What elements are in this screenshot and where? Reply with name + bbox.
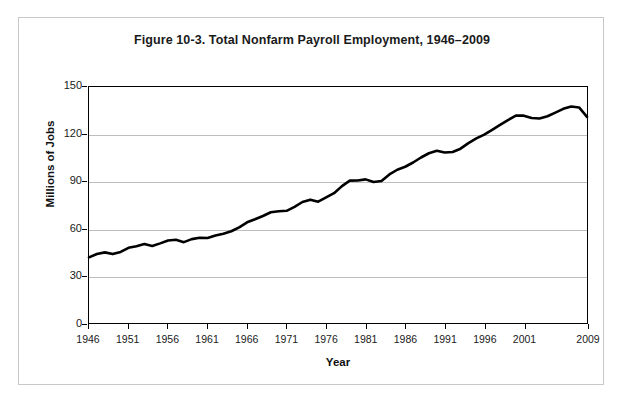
y-axis-tick-label: 120: [50, 127, 82, 139]
y-axis-tick-label: 60: [50, 222, 82, 234]
figure-card: Figure 10-3. Total Nonfarm Payroll Emplo…: [18, 17, 604, 385]
y-axis-tick-label: 30: [50, 269, 82, 281]
y-axis-tick-mark: [82, 181, 87, 182]
x-axis-tick-label: 1946: [66, 333, 110, 345]
y-axis-tick-label: 0: [50, 317, 82, 329]
x-axis-tick-label: 1956: [145, 333, 189, 345]
nonfarm-payroll-line: [89, 107, 587, 258]
x-axis-tick-mark: [326, 324, 327, 329]
x-axis-tick-label: 1991: [423, 333, 467, 345]
x-axis-tick-mark: [128, 324, 129, 329]
x-axis-tick-mark: [405, 324, 406, 329]
x-axis-tick-label: 2001: [503, 333, 547, 345]
x-axis-tick-mark: [366, 324, 367, 329]
chart-title: Figure 10-3. Total Nonfarm Payroll Emplo…: [19, 33, 605, 47]
x-axis-tick-label: 1966: [225, 333, 269, 345]
y-axis-tick-group: 0306090120150: [48, 86, 82, 324]
y-axis-tick-mark: [82, 134, 87, 135]
x-axis-tick-label: 2009: [566, 333, 610, 345]
x-axis-tick-label: 1951: [106, 333, 150, 345]
x-axis-tick-mark: [207, 324, 208, 329]
x-axis-tick-mark: [247, 324, 248, 329]
x-axis-tick-group: 1946195119561961196619711976198119861991…: [88, 324, 588, 354]
x-axis-tick-label: 1996: [463, 333, 507, 345]
y-axis-tick-mark: [82, 276, 87, 277]
y-axis-tick-mark: [82, 229, 87, 230]
x-axis-tick-mark: [88, 324, 89, 329]
x-axis-tick-mark: [485, 324, 486, 329]
x-axis-tick-mark: [588, 324, 589, 329]
x-axis-tick-label: 1971: [264, 333, 308, 345]
x-axis-tick-mark: [525, 324, 526, 329]
x-axis-tick-label: 1981: [344, 333, 388, 345]
x-axis-title: Year: [88, 356, 588, 368]
y-axis-tick-mark: [82, 324, 87, 325]
plot-area: [88, 86, 588, 324]
x-axis-tick-label: 1961: [185, 333, 229, 345]
x-axis-tick-mark: [167, 324, 168, 329]
series-chart: [89, 87, 587, 323]
y-axis-tick-label: 90: [50, 174, 82, 186]
x-axis-tick-mark: [445, 324, 446, 329]
x-axis-tick-mark: [286, 324, 287, 329]
y-axis-tick-label: 150: [50, 79, 82, 91]
x-axis-tick-label: 1976: [304, 333, 348, 345]
y-axis-tick-mark: [82, 86, 87, 87]
x-axis-tick-label: 1986: [383, 333, 427, 345]
